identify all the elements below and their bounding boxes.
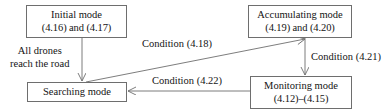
node-accumulating-mode-equations: (4.19) and (4.20): [265, 22, 334, 35]
edge-label-all-drones-line1: All drones: [10, 44, 69, 57]
edge-label-condition-4-22: Condition (4.22): [152, 75, 222, 88]
edge-label-condition-4-21: Condition (4.21): [311, 51, 381, 64]
node-searching-mode[interactable]: Searching mode: [27, 82, 127, 102]
node-accumulating-mode-title: Accumulating mode: [257, 9, 342, 22]
edge-label-condition-4-18: Condition (4.18): [142, 38, 212, 51]
node-initial-mode[interactable]: Initial mode (4.16) and (4.17): [26, 5, 127, 38]
node-searching-mode-title: Searching mode: [43, 86, 111, 99]
node-monitoring-mode-equations: (4.12)–(4.15): [274, 93, 329, 106]
node-monitoring-mode[interactable]: Monitoring mode (4.12)–(4.15): [250, 76, 352, 109]
node-monitoring-mode-title: Monitoring mode: [264, 80, 338, 93]
node-initial-mode-equations: (4.16) and (4.17): [42, 22, 111, 35]
edge-label-all-drones-reach-the-road: All drones reach the road: [10, 44, 69, 70]
node-accumulating-mode[interactable]: Accumulating mode (4.19) and (4.20): [248, 5, 352, 38]
edge-label-all-drones-line2: reach the road: [10, 57, 69, 70]
state-transition-diagram: Initial mode (4.16) and (4.17) Accumulat…: [0, 0, 389, 112]
node-initial-mode-title: Initial mode: [51, 9, 102, 22]
